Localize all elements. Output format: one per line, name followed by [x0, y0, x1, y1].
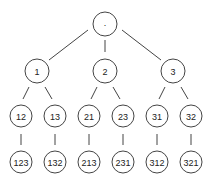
- tree-node-n31: 31: [146, 105, 168, 127]
- tree-node-n12: 12: [10, 105, 32, 127]
- node-label: 1: [34, 67, 39, 77]
- tree-node-n2: 2: [93, 59, 117, 83]
- tree-nodes: ·123121321233132123132213231312321: [10, 12, 202, 173]
- node-label: 13: [50, 112, 60, 122]
- node-label: 312: [149, 158, 164, 168]
- node-label: 3: [170, 67, 175, 77]
- node-label: ·: [104, 20, 107, 30]
- edge-n1-n13: [45, 87, 52, 99]
- tree-node-n231: 231: [112, 151, 134, 173]
- tree-node-n123: 123: [10, 151, 32, 173]
- node-label: 21: [84, 112, 94, 122]
- node-label: 2: [102, 67, 107, 77]
- node-label: 31: [152, 112, 162, 122]
- tree-node-n3: 3: [161, 59, 185, 83]
- tree-node-n32: 32: [180, 105, 202, 127]
- tree-node-n312: 312: [146, 151, 168, 173]
- node-label: 231: [115, 158, 130, 168]
- node-label: 321: [183, 158, 198, 168]
- permutation-tree-diagram: ·123121321233132123132213231312321: [0, 0, 216, 183]
- edge-root-n3: [122, 30, 161, 60]
- tree-node-n21: 21: [78, 105, 100, 127]
- node-label: 32: [186, 112, 196, 122]
- tree-node-n23: 23: [112, 105, 134, 127]
- edge-n3-n32: [181, 87, 188, 99]
- tree-edges: [21, 30, 191, 145]
- tree-node-root: ·: [93, 12, 117, 36]
- tree-node-n132: 132: [44, 151, 66, 173]
- tree-node-n1: 1: [25, 59, 49, 83]
- edge-n2-n23: [113, 87, 120, 99]
- node-label: 12: [16, 112, 26, 122]
- node-label: 132: [47, 158, 62, 168]
- edge-n1-n12: [23, 87, 29, 99]
- edge-n2-n21: [91, 87, 97, 99]
- node-label: 213: [81, 158, 96, 168]
- node-label: 123: [13, 158, 28, 168]
- tree-node-n213: 213: [78, 151, 100, 173]
- edge-root-n1: [49, 30, 88, 60]
- tree-node-n13: 13: [44, 105, 66, 127]
- edge-n3-n31: [159, 87, 165, 99]
- tree-node-n321: 321: [180, 151, 202, 173]
- node-label: 23: [118, 112, 128, 122]
